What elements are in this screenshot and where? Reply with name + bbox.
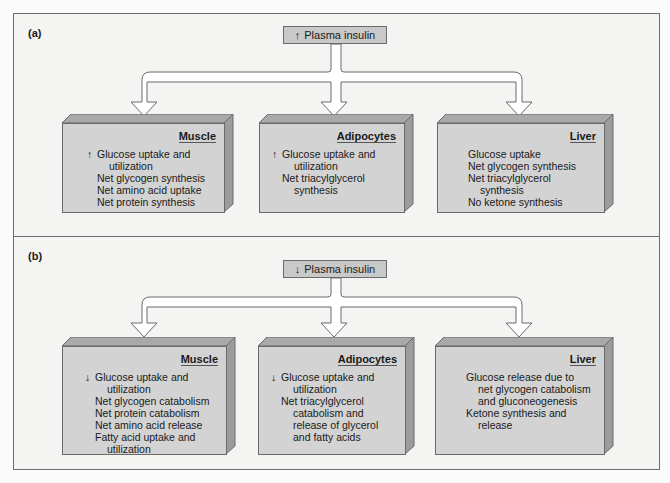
effect-text: and gluconeogenesis [478,395,577,407]
effect-line: release of glycerol [281,419,378,431]
effect-text: Glucose uptake and [95,371,188,383]
effect-line: Net glycogen synthesis [468,160,576,172]
effect-text: Glucose uptake and [282,148,375,160]
effect-line: utilization [95,443,209,455]
effect-line: net glycogen catabolism [466,383,591,395]
effect-line: ↑Glucose uptake and [97,148,205,160]
down-arrow-icon: ↓ [295,263,301,275]
effect-line: Net triacylglycerol [282,172,375,184]
effect-text: Net triacylglycerol [468,172,551,184]
effect-text: Net triacylglycerol [281,395,364,407]
effect-line: Net glycogen synthesis [97,172,205,184]
box-front: Liver Glucose uptakeNet glycogen synthes… [437,123,605,213]
tissue-title: Adipocytes [337,130,396,143]
effect-text: Ketone synthesis and [466,407,566,419]
tissue-title: Adipocytes [338,353,397,366]
down-arrow-icon: ↓ [85,371,95,383]
effect-text: utilization [107,383,151,395]
tissue-title: Liver [570,353,596,366]
effect-line: utilization [97,160,205,172]
effect-text: Fatty acid uptake and [95,431,195,443]
box-front: Muscle ↑Glucose uptake andutilizationNet… [62,123,225,213]
tissue-title: Liver [570,130,596,143]
effect-text: Net protein synthesis [97,196,195,208]
effect-line: Net protein synthesis [97,196,205,208]
effect-line: Ketone synthesis and [466,407,591,419]
effect-text: net glycogen catabolism [478,383,591,395]
effect-line: Glucose release due to [466,371,591,383]
effect-text: and fatty acids [293,431,361,443]
effect-line: Fatty acid uptake and [95,431,209,443]
effect-line: ↑Glucose uptake and [282,148,375,160]
tissue-box-muscle: Muscle ↓Glucose uptake andutilizationNet… [62,337,236,455]
tissue-box-liver: Liver Glucose release due tonet glycogen… [435,337,614,455]
effect-line: and fatty acids [281,431,378,443]
plasma-insulin-decrease-box: ↓Plasma insulin [283,260,387,278]
effect-line: and gluconeogenesis [466,395,591,407]
effect-line: Glucose uptake [468,148,576,160]
effect-line: Net triacylglycerol [468,172,576,184]
effect-line: utilization [281,383,378,395]
effect-text: Glucose uptake and [281,371,374,383]
effects-list: ↑Glucose uptake andutilizationNet triacy… [282,148,375,196]
effect-line: Net amino acid release [95,419,209,431]
effect-line: ↓Glucose uptake and [95,371,209,383]
effect-text: No ketone synthesis [468,196,563,208]
tissue-title: Muscle [179,130,216,143]
effect-text: Glucose uptake and [97,148,190,160]
effect-line: Net glycogen catabolism [95,395,209,407]
up-arrow-icon: ↑ [295,29,301,41]
box-front: Liver Glucose release due tonet glycogen… [435,346,605,455]
effect-line: ↓Glucose uptake and [281,371,378,383]
box-front: Adipocytes ↓Glucose uptake andutilizatio… [258,346,406,455]
insulin-label: Plasma insulin [304,29,375,41]
tissue-box-muscle: Muscle ↑Glucose uptake andutilizationNet… [62,114,234,213]
effect-line: release [466,419,591,431]
effect-line: catabolism and [281,407,378,419]
effect-text: utilization [107,443,151,455]
effect-line: synthesis [468,184,576,196]
tissue-box-liver: Liver Glucose uptakeNet glycogen synthes… [437,114,614,213]
effect-text: utilization [109,160,153,172]
effect-text: utilization [294,160,338,172]
tissue-box-adipocytes: Adipocytes ↓Glucose uptake andutilizatio… [258,337,415,455]
effect-text: catabolism and [293,407,364,419]
tissue-box-adipocytes: Adipocytes ↑Glucose uptake andutilizatio… [259,114,414,213]
effect-text: Net glycogen synthesis [468,160,576,172]
effect-text: synthesis [480,184,524,196]
down-arrow-icon: ↓ [271,371,281,383]
effect-line: synthesis [282,184,375,196]
effect-text: Net protein catabolism [95,407,199,419]
up-arrow-icon: ↑ [272,148,282,160]
effect-text: Net glycogen catabolism [95,395,209,407]
up-arrow-icon: ↑ [87,148,97,160]
effect-text: Net triacylglycerol [282,172,365,184]
box-front: Muscle ↓Glucose uptake andutilizationNet… [62,346,227,455]
tissue-title: Muscle [181,353,218,366]
effect-line: Net amino acid uptake [97,184,205,196]
effect-line: utilization [95,383,209,395]
effect-text: Glucose uptake [468,148,541,160]
effect-line: Net protein catabolism [95,407,209,419]
effect-text: Net glycogen synthesis [97,172,205,184]
effect-line: No ketone synthesis [468,196,576,208]
effects-list: ↓Glucose uptake andutilizationNet triacy… [281,371,378,443]
effect-text: release [478,419,512,431]
effects-list: Glucose uptakeNet glycogen synthesisNet … [468,148,576,208]
box-front: Adipocytes ↑Glucose uptake andutilizatio… [259,123,405,213]
effects-list: Glucose release due tonet glycogen catab… [466,371,591,431]
effects-list: ↑Glucose uptake andutilizationNet glycog… [97,148,205,208]
effect-line: utilization [282,160,375,172]
effect-text: release of glycerol [293,419,378,431]
insulin-label: Plasma insulin [304,263,375,275]
effect-text: Net amino acid uptake [97,184,201,196]
effect-text: Net amino acid release [95,419,202,431]
plasma-insulin-increase-box: ↑Plasma insulin [283,26,387,44]
effect-text: synthesis [294,184,338,196]
effect-line: Net triacylglycerol [281,395,378,407]
effects-list: ↓Glucose uptake andutilizationNet glycog… [95,371,209,455]
effect-text: Glucose release due to [466,371,574,383]
effect-text: utilization [293,383,337,395]
